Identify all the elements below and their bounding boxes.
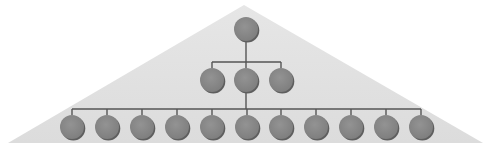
node-circle	[269, 68, 293, 92]
node-circle	[95, 115, 119, 139]
nodes	[60, 17, 434, 141]
node-circle	[234, 17, 258, 41]
node-circle	[130, 115, 154, 139]
node-circle	[60, 115, 84, 139]
node-circle	[374, 115, 398, 139]
node-circle	[409, 115, 433, 139]
node-circle	[269, 115, 293, 139]
node-circle	[304, 115, 328, 139]
node-circle	[339, 115, 363, 139]
node-circle	[200, 68, 224, 92]
node-circle	[234, 68, 258, 92]
node-circle	[235, 115, 259, 139]
hierarchy-diagram	[0, 0, 486, 152]
node-circle	[200, 115, 224, 139]
node-circle	[165, 115, 189, 139]
